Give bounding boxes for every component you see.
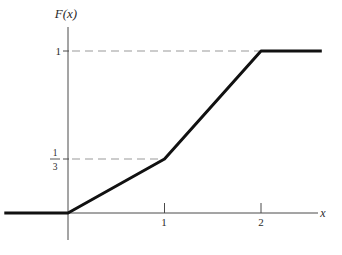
- figure-page: F(x) x 1 1 3 1 2: [0, 0, 342, 255]
- x-tick-label-1: 1: [161, 216, 167, 228]
- cdf-curve: [4, 51, 322, 213]
- x-axis-title: x: [319, 206, 326, 220]
- cdf-plot: F(x) x 1 1 3 1 2: [0, 0, 342, 255]
- x-tick-label-2: 2: [258, 216, 264, 228]
- y-tick-label-one-third: 1 3: [50, 148, 60, 172]
- y-axis-title: F(x): [54, 6, 77, 21]
- y-tick-label-1: 1: [56, 45, 62, 57]
- fraction-denominator: 3: [53, 162, 58, 172]
- axes: [68, 27, 318, 240]
- dashed-guide-lines: [72, 51, 259, 159]
- tick-marks: [63, 51, 261, 213]
- fraction-numerator: 1: [53, 148, 58, 158]
